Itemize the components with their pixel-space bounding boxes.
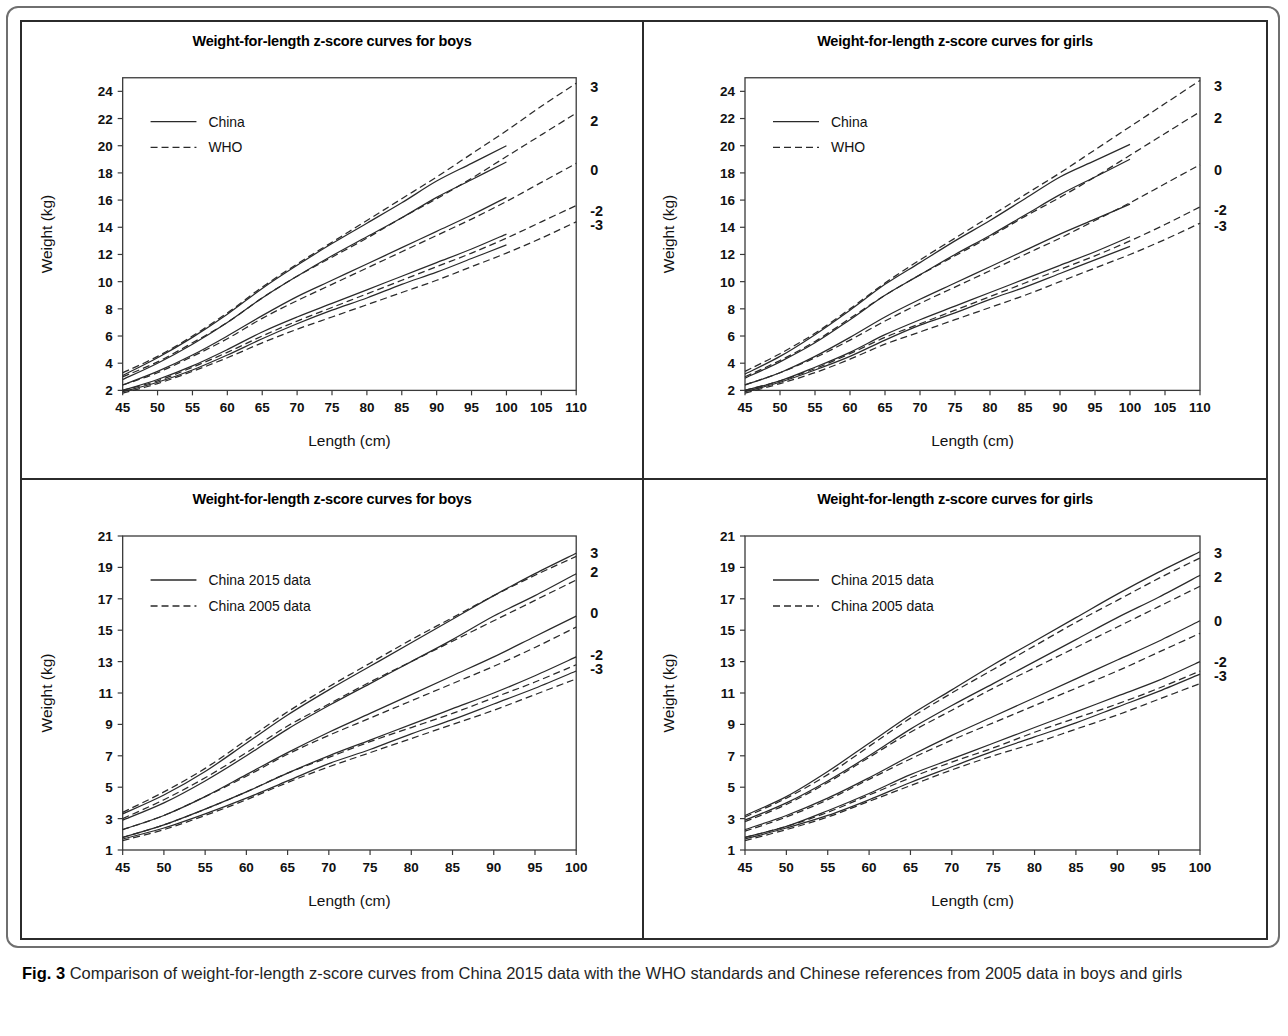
y-tick-label: 19 xyxy=(720,560,735,575)
x-tick-label: 60 xyxy=(842,400,857,415)
panel-bottom-right: Weight-for-length z-score curves for gir… xyxy=(644,480,1266,938)
y-tick-label: 15 xyxy=(98,623,113,638)
x-tick-label: 75 xyxy=(325,400,340,415)
curve-solid xyxy=(745,662,1200,838)
y-tick-label: 24 xyxy=(98,84,113,99)
x-tick-label: 70 xyxy=(321,860,336,875)
x-tick-label: 105 xyxy=(1154,400,1177,415)
legend-label: WHO xyxy=(208,139,242,155)
curve-dashed xyxy=(745,80,1200,371)
x-tick-label: 60 xyxy=(239,860,254,875)
x-tick-label: 45 xyxy=(737,860,753,875)
y-tick-label: 10 xyxy=(720,275,735,290)
y-tick-label: 2 xyxy=(727,383,735,398)
zscore-label: 0 xyxy=(1214,162,1222,178)
x-tick-label: 90 xyxy=(429,400,444,415)
y-tick-label: 1 xyxy=(105,843,113,858)
y-tick-label: 9 xyxy=(727,717,735,732)
x-tick-label: 50 xyxy=(779,860,794,875)
x-tick-label: 70 xyxy=(290,400,305,415)
x-tick-label: 75 xyxy=(986,860,1002,875)
curve-solid xyxy=(745,246,1130,391)
x-tick-label: 55 xyxy=(198,860,213,875)
x-tick-label: 90 xyxy=(486,860,501,875)
y-tick-label: 14 xyxy=(98,220,113,235)
y-tick-label: 21 xyxy=(98,529,113,544)
zscore-label: -3 xyxy=(590,661,603,677)
legend-label: China 2015 data xyxy=(831,572,934,588)
zscore-label: -2 xyxy=(1214,202,1227,218)
x-tick-label: 95 xyxy=(528,860,543,875)
y-tick-label: 15 xyxy=(720,623,736,638)
y-tick-label: 6 xyxy=(727,329,735,344)
x-tick-label: 95 xyxy=(1087,400,1103,415)
legend-label: WHO xyxy=(831,139,865,155)
y-axis-label: Weight (kg) xyxy=(660,195,677,274)
y-tick-label: 6 xyxy=(105,329,112,344)
y-tick-label: 10 xyxy=(98,275,113,290)
y-tick-label: 2 xyxy=(105,383,112,398)
x-tick-label: 80 xyxy=(982,400,997,415)
panel-grid: Weight-for-length z-score curves for boy… xyxy=(20,20,1268,940)
y-tick-label: 22 xyxy=(98,112,113,127)
legend-label: China 2015 data xyxy=(208,572,311,588)
curve-solid xyxy=(123,574,577,820)
x-tick-label: 100 xyxy=(1119,400,1142,415)
y-tick-label: 4 xyxy=(727,356,735,371)
x-tick-label: 75 xyxy=(363,860,378,875)
x-tick-label: 80 xyxy=(404,860,419,875)
y-tick-label: 7 xyxy=(105,749,112,764)
curve-dashed xyxy=(123,665,577,838)
curve-dashed xyxy=(123,679,577,841)
zscore-label: 3 xyxy=(590,79,598,95)
y-tick-label: 20 xyxy=(720,139,735,154)
x-tick-label: 85 xyxy=(394,400,409,415)
x-tick-label: 50 xyxy=(772,400,787,415)
y-tick-label: 9 xyxy=(105,717,112,732)
x-tick-label: 100 xyxy=(495,400,517,415)
x-axis-label: Length (cm) xyxy=(931,432,1014,449)
x-tick-label: 85 xyxy=(445,860,460,875)
y-axis-label: Weight (kg) xyxy=(38,195,55,274)
curve-dashed xyxy=(745,586,1200,822)
x-tick-label: 80 xyxy=(359,400,374,415)
legend-label: China xyxy=(208,114,245,130)
curve-dashed xyxy=(123,556,577,812)
x-tick-label: 65 xyxy=(280,860,295,875)
y-tick-label: 17 xyxy=(98,592,113,607)
curve-dashed xyxy=(745,671,1200,837)
x-tick-label: 55 xyxy=(807,400,823,415)
curve-solid xyxy=(745,237,1130,391)
y-tick-label: 3 xyxy=(105,812,112,827)
x-tick-label: 110 xyxy=(565,400,587,415)
y-tick-label: 20 xyxy=(98,139,113,154)
figure-caption-text: Comparison of weight-for-length z-score … xyxy=(65,964,1182,982)
figure-caption: Fig. 3 Comparison of weight-for-length z… xyxy=(22,962,1268,986)
y-tick-label: 7 xyxy=(727,749,735,764)
plot-frame xyxy=(123,78,577,391)
zscore-label: -3 xyxy=(590,217,603,233)
x-tick-label: 65 xyxy=(903,860,919,875)
zscore-label: 2 xyxy=(590,113,598,129)
x-tick-label: 90 xyxy=(1110,860,1125,875)
zscore-label: 2 xyxy=(1214,569,1222,585)
curve-solid xyxy=(123,671,577,839)
y-tick-label: 3 xyxy=(727,812,735,827)
y-tick-label: 24 xyxy=(720,84,736,99)
x-tick-label: 75 xyxy=(947,400,963,415)
curve-solid xyxy=(123,162,507,379)
y-tick-label: 4 xyxy=(105,356,113,371)
curve-solid xyxy=(745,575,1200,820)
x-tick-label: 60 xyxy=(862,860,877,875)
x-axis-label: Length (cm) xyxy=(308,892,390,909)
chart-top-left: 4550556065707580859095100105110246810121… xyxy=(22,22,642,478)
plot-frame xyxy=(123,536,577,850)
y-tick-label: 21 xyxy=(720,529,736,544)
x-tick-label: 65 xyxy=(255,400,270,415)
y-tick-label: 11 xyxy=(721,686,736,701)
x-tick-label: 70 xyxy=(912,400,927,415)
y-axis-label: Weight (kg) xyxy=(38,654,55,733)
x-tick-label: 55 xyxy=(820,860,836,875)
x-tick-label: 50 xyxy=(150,400,165,415)
y-axis-label: Weight (kg) xyxy=(660,654,677,733)
